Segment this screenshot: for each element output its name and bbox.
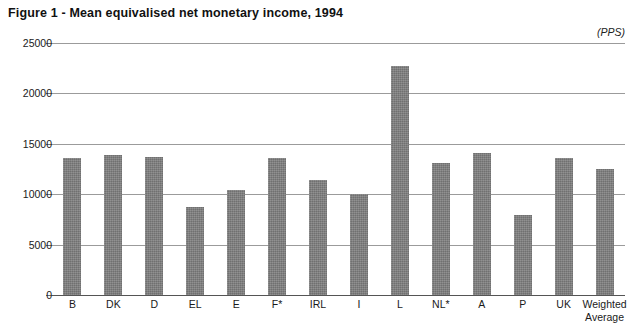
x-axis-label-line: L <box>397 298 403 310</box>
y-axis-label-15000: 15000 <box>6 138 52 150</box>
x-axis-label-weighted-average: WeightedAverage <box>575 298 635 324</box>
x-axis-label-line: D <box>151 298 159 310</box>
bar-l <box>391 66 409 295</box>
x-axis-label-line: F* <box>272 298 283 310</box>
y-axis-label-20000: 20000 <box>6 87 52 99</box>
page-title: Figure 1 - Mean equivalised net monetary… <box>8 6 343 20</box>
bar-uk <box>555 158 573 295</box>
bar-a <box>473 153 491 295</box>
x-axis-label-line: A <box>478 298 485 310</box>
bar-d <box>145 157 163 295</box>
plot-area <box>52 43 625 295</box>
x-axis-label-line: E <box>233 298 240 310</box>
x-axis: BDKDELEF*IRLILNL*APUKWeightedAverage <box>52 298 625 334</box>
bar-p <box>514 215 532 295</box>
x-axis-label-line: UK <box>556 298 571 310</box>
x-axis-label-line: Average <box>575 311 635 324</box>
gridline-0 <box>52 295 625 296</box>
figure-container: Figure 1 - Mean equivalised net monetary… <box>0 0 637 335</box>
bar-i <box>350 194 368 295</box>
y-axis-label-25000: 25000 <box>6 37 52 49</box>
bar-nl- <box>432 163 450 295</box>
bar-series <box>52 43 625 295</box>
x-axis-label-line: EL <box>189 298 202 310</box>
y-axis-label-5000: 5000 <box>6 239 52 251</box>
bar-el <box>186 207 204 295</box>
y-axis-label-10000: 10000 <box>6 188 52 200</box>
bar-irl <box>309 180 327 295</box>
x-axis-label-line: I <box>357 298 360 310</box>
bar-dk <box>104 155 122 295</box>
x-axis-label-line: Weighted <box>582 298 626 310</box>
bar-f- <box>268 158 286 295</box>
bar-b <box>63 158 81 295</box>
units-label: (PPS) <box>597 26 625 38</box>
bar-e <box>227 190 245 295</box>
x-axis-label-line: DK <box>106 298 121 310</box>
bar-weighted-average <box>596 169 614 295</box>
x-axis-label-line: B <box>69 298 76 310</box>
x-axis-label-line: P <box>519 298 526 310</box>
x-axis-label-line: IRL <box>310 298 326 310</box>
x-axis-label-line: NL* <box>432 298 450 310</box>
